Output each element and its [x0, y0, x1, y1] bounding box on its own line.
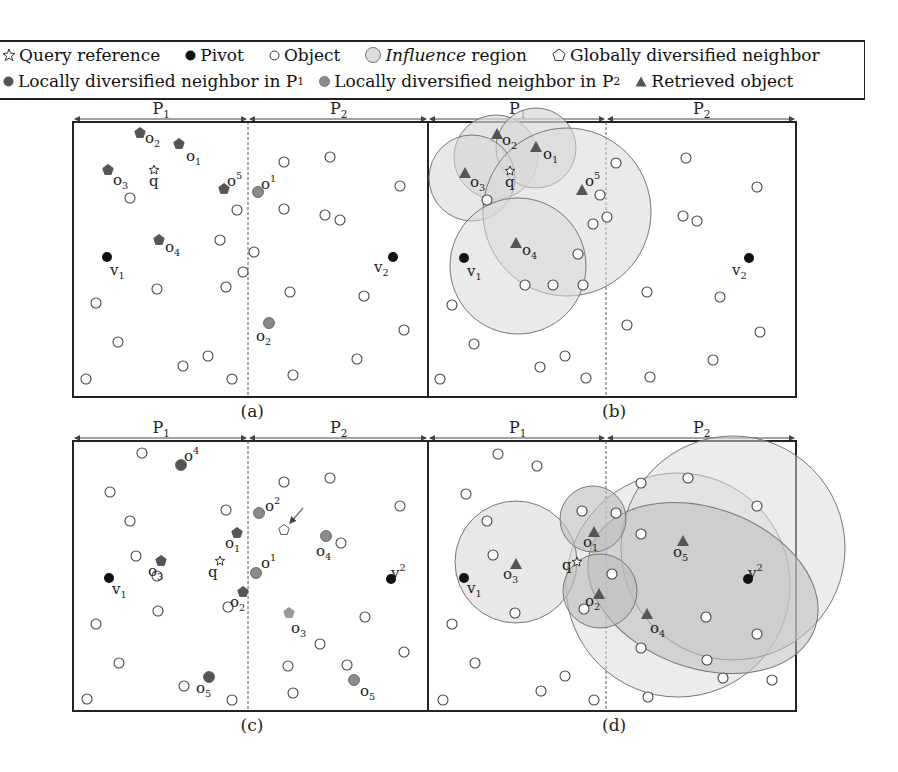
dark-circle-icon: [2, 75, 15, 88]
object-point: [510, 608, 520, 618]
point-label: o1: [186, 147, 201, 167]
shaded-circle-icon: [364, 46, 382, 64]
object-point: [718, 673, 728, 683]
object-point: [153, 606, 163, 616]
pentagon-point: [232, 528, 242, 538]
object-point: [701, 612, 711, 622]
object-point: [285, 287, 295, 297]
point-label: q: [208, 563, 218, 581]
panel-c: P1P2(c)v1v2qo4o1o3o2o5o2o1o4o5o3: [73, 418, 428, 735]
point-label: v2: [390, 562, 406, 582]
point-label: o4: [316, 542, 331, 562]
object-point: [178, 361, 188, 371]
panel-frame: [428, 441, 796, 711]
retrieved-triangle: [491, 128, 503, 139]
figure: P1P2(a)v1v2qo2o1o3o5o4o1o2P1P2(b)v1v2qo2…: [0, 0, 898, 772]
pivot-point: [104, 573, 114, 583]
point-label: o1: [225, 534, 240, 554]
legend-label: region: [466, 45, 527, 65]
legend-row-1: Query reference Pivot Object Influence r…: [2, 42, 834, 68]
object-point: [105, 487, 115, 497]
object-point: [715, 292, 725, 302]
object-point: [325, 473, 335, 483]
object-point: [488, 550, 498, 560]
point-label: o4: [650, 619, 665, 639]
point-label: o2: [502, 131, 517, 151]
panel-frame: [428, 122, 796, 397]
influence-regions: [429, 108, 651, 334]
object-point: [82, 694, 92, 704]
legend-label: Globally diversified neighbor: [570, 45, 820, 65]
object-point: [755, 327, 765, 337]
object-point: [435, 374, 445, 384]
neighbor-point: [176, 460, 187, 471]
object-point: [636, 478, 646, 488]
legend-object: Object: [268, 45, 341, 65]
legend-row-2: Locally diversified neighbor in P1 Local…: [2, 68, 807, 94]
object-point: [395, 181, 405, 191]
object-point: [461, 489, 471, 499]
object-point: [325, 152, 335, 162]
legend-label: Object: [284, 45, 341, 65]
point-label: P1: [153, 418, 170, 439]
legend: Query reference Pivot Object Influence r…: [0, 40, 898, 98]
object-point: [179, 681, 189, 691]
object-point: [438, 695, 448, 705]
object-point: [399, 325, 409, 335]
object-point: [520, 280, 530, 290]
object-point: [114, 658, 124, 668]
point-label: q: [562, 556, 572, 574]
object-point: [395, 501, 405, 511]
neighbor-point: [264, 318, 275, 329]
point-label: o5: [673, 543, 688, 563]
influence-region: [566, 473, 790, 697]
legend-label-italic: Influence: [385, 45, 466, 65]
object-point: [352, 354, 362, 364]
object-point: [360, 612, 370, 622]
object-point: [152, 284, 162, 294]
retrieved-triangle: [530, 141, 542, 152]
object-point: [579, 604, 589, 614]
object-point: [708, 355, 718, 365]
neighbor-point: [251, 568, 262, 579]
retrieved-triangle: [593, 588, 605, 599]
object-point: [581, 373, 591, 383]
neighbor-point: [349, 675, 360, 686]
pentagon-point: [279, 525, 289, 535]
object-point: [560, 671, 570, 681]
legend-local-p1: Locally diversified neighbor in P1: [2, 71, 304, 91]
retrieved-triangle: [588, 526, 600, 537]
pentagon-point: [103, 165, 113, 175]
influence-region: [564, 472, 842, 704]
retrieved-triangle: [459, 167, 471, 178]
point-label: v1: [466, 262, 482, 282]
influence-regions: [455, 436, 845, 704]
object-point: [359, 291, 369, 301]
pivot-point: [388, 252, 398, 262]
object-point: [767, 675, 777, 685]
object-point: [702, 655, 712, 665]
influence-region: [454, 115, 538, 199]
pivot-point: [386, 574, 396, 584]
object-point: [681, 153, 691, 163]
object-point: [336, 538, 346, 548]
pentagon-point: [154, 235, 164, 245]
object-point: [588, 219, 598, 229]
legend-sub: 1: [297, 75, 304, 88]
pentagon-outline-icon: [551, 47, 567, 63]
star-outline-icon: [2, 48, 16, 62]
object-point: [573, 249, 583, 259]
object-point: [447, 300, 457, 310]
object-point: [642, 287, 652, 297]
object-point: [232, 205, 242, 215]
point-label: o2: [585, 592, 600, 612]
object-point: [611, 158, 621, 168]
object-point: [602, 212, 612, 222]
object-point: [678, 211, 688, 221]
pivot-point: [744, 253, 754, 263]
influence-region: [563, 554, 637, 628]
pentagon-point: [156, 556, 166, 566]
influence-region: [621, 436, 845, 660]
point-label: o1: [261, 173, 276, 193]
point-label: v2: [373, 258, 389, 278]
